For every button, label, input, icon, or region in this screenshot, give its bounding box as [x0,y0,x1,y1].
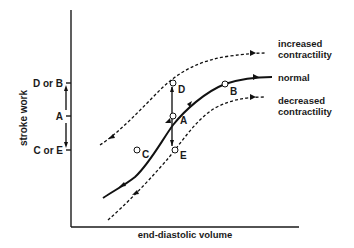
point-label-a: A [180,115,187,126]
point-e [172,147,178,153]
curve-normal [103,77,272,198]
point-b [222,81,228,87]
point-label-b: B [230,86,237,97]
curve-label-decreased-1: decreased [278,95,325,106]
y-up-arrowhead [64,85,68,91]
curve-label-increased-2: contractility [278,49,333,60]
y-down-arrowhead [64,142,68,148]
arrow-normal-left [119,182,126,187]
curve-label-normal: normal [278,72,310,83]
point-c [134,147,140,153]
arrow-to-d [170,86,174,92]
curve-label-increased-1: increased [278,38,323,49]
y-axis-title: stroke work [18,89,29,146]
arrow-normal-mid-down [165,118,171,123]
y-tick-label-d-or-b: D or B [33,78,63,89]
point-label-d: D [178,84,185,95]
arrow-to-e [170,140,174,146]
curve-label-decreased-2: contractility [278,106,333,117]
point-d [170,80,176,86]
ventricular-function-diagram: D or B A C or E stroke work end-diastoli… [0,0,354,248]
point-label-e: E [180,150,187,161]
y-tick-label-a: A [56,111,63,122]
arrow-increased-right [250,50,256,56]
arrow-decreased-right [250,94,256,100]
y-tick-label-c-or-e: C or E [34,145,64,156]
x-axis-title: end-diastolic volume [138,229,233,240]
point-a [170,113,176,119]
arrow-normal-right [253,74,259,80]
point-label-c: C [142,149,149,160]
